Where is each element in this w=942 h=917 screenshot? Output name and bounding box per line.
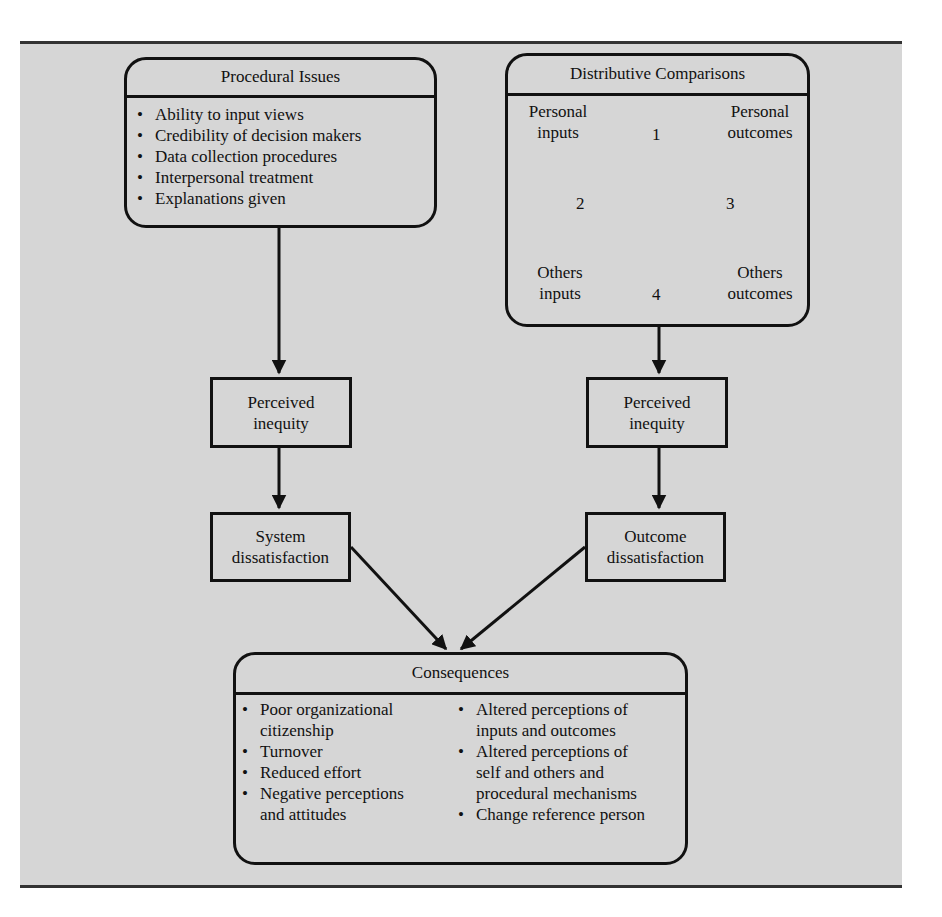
node-personal-outcomes: Personal outcomes xyxy=(712,101,808,143)
node-personal-inputs: Personal inputs xyxy=(508,101,608,143)
list-item: Credibility of decision makers xyxy=(131,125,434,146)
perceived-inequity-right-box: Perceived inequity xyxy=(586,377,728,448)
perceived-inequity-left-box: Perceived inequity xyxy=(210,377,352,448)
comparison-label-1: 1 xyxy=(652,125,661,145)
list-item: Interpersonal treatment xyxy=(131,167,434,188)
procedural-issues-title: Procedural Issues xyxy=(127,60,434,98)
list-item: Negative perceptions and attitudes xyxy=(236,783,452,825)
consequences-right-list: Altered perceptions of inputs and outcom… xyxy=(452,699,682,825)
list-item: Poor organizational citizenship xyxy=(236,699,452,741)
consequences-title: Consequences xyxy=(236,655,685,695)
comparison-label-4: 4 xyxy=(652,285,661,305)
comparison-label-2: 2 xyxy=(576,194,585,214)
node-others-outcomes: Others outcomes xyxy=(712,262,808,304)
list-item: Reduced effort xyxy=(236,762,452,783)
procedural-issues-list: Ability to input views Credibility of de… xyxy=(127,98,434,209)
list-item: Turnover xyxy=(236,741,452,762)
list-item: Explanations given xyxy=(131,188,434,209)
list-item: Change reference person xyxy=(452,804,682,825)
procedural-issues-box: Procedural Issues Ability to input views… xyxy=(124,57,437,228)
system-dissatisfaction-box: System dissatisfaction xyxy=(210,512,351,582)
list-item: Altered perceptions of self and others a… xyxy=(452,741,682,804)
outcome-dissatisfaction-box: Outcome dissatisfaction xyxy=(585,512,726,582)
list-item: Data collection procedures xyxy=(131,146,434,167)
consequences-left-list: Poor organizational citizenship Turnover… xyxy=(236,699,452,825)
node-others-inputs: Others inputs xyxy=(510,262,610,304)
list-item: Altered perceptions of inputs and outcom… xyxy=(452,699,682,741)
consequences-box: Consequences Poor organizational citizen… xyxy=(233,652,688,865)
distributive-comparisons-title: Distributive Comparisons xyxy=(508,56,807,96)
comparison-label-3: 3 xyxy=(726,194,735,214)
list-item: Ability to input views xyxy=(131,104,434,125)
